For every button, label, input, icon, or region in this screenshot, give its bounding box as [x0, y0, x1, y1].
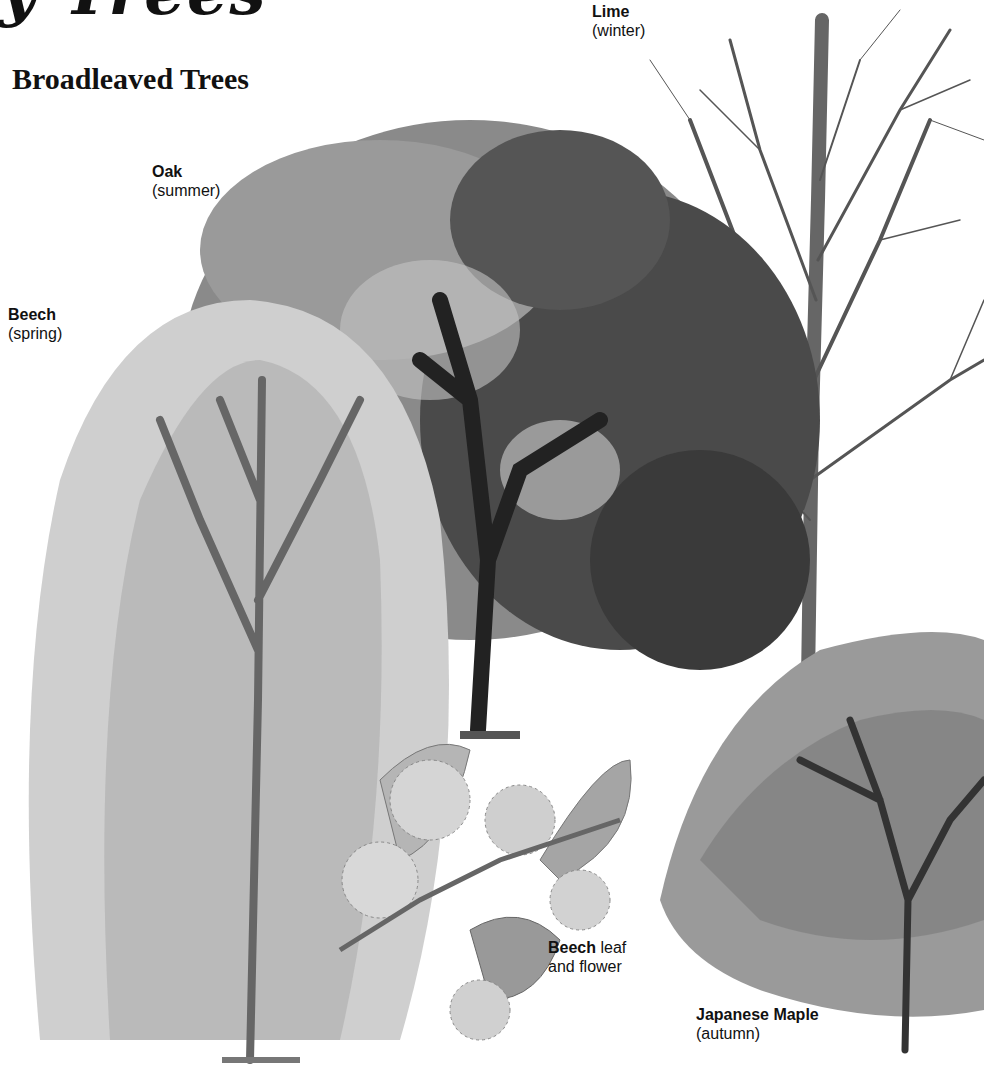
label-beech-name: Beech: [8, 305, 62, 324]
label-japanese-maple-season: (autumn): [696, 1024, 819, 1043]
label-japanese-maple: Japanese Maple (autumn): [696, 1005, 819, 1043]
label-oak-name: Oak: [152, 162, 220, 181]
section-title: Broadleaved Trees: [12, 62, 249, 96]
trees-illustration: [0, 0, 984, 1068]
label-lime-name: Lime: [592, 2, 645, 21]
label-beech-leaf-flower: Beech leaf and flower: [548, 938, 626, 976]
label-beech-leaf-rest: leaf: [596, 939, 626, 956]
label-lime-season: (winter): [592, 21, 645, 40]
label-lime: Lime (winter): [592, 2, 645, 40]
japanese-maple-drawing: [660, 632, 984, 1050]
label-oak: Oak (summer): [152, 162, 220, 200]
label-oak-season: (summer): [152, 181, 220, 200]
label-beech-season: (spring): [8, 324, 62, 343]
label-beech-leaf-line2: and flower: [548, 957, 626, 976]
beech-tree-drawing: [29, 300, 449, 1060]
label-japanese-maple-name: Japanese Maple: [696, 1005, 819, 1024]
label-beech-leaf-name: Beech: [548, 939, 596, 956]
label-beech: Beech (spring): [8, 305, 62, 343]
